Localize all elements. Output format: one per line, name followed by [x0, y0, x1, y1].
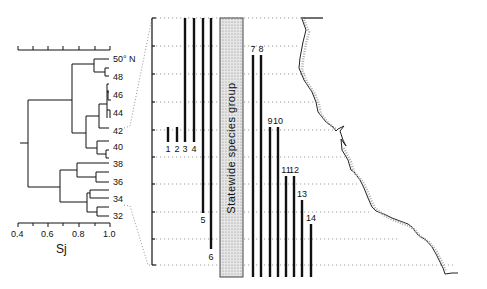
leaf-label-48: 48	[113, 72, 123, 82]
leaf-label-34: 34	[113, 194, 123, 204]
leaf-label-38: 38	[113, 159, 123, 169]
leaf-label-46: 46	[113, 90, 123, 100]
leaf-label-44: 44	[113, 108, 123, 118]
axis-tick-1-0: 1.0	[103, 229, 116, 239]
leaf-label-32: 32	[113, 211, 123, 221]
leaf-label-42: 42	[113, 126, 123, 136]
latitude-axis	[152, 18, 156, 265]
figure-graphics	[0, 0, 487, 289]
bar-label-8: 8	[256, 44, 266, 54]
bar-label-5: 5	[198, 215, 208, 225]
bar-label-4: 4	[189, 144, 199, 154]
leaf-label-36: 36	[113, 177, 123, 187]
dendrogram-tree	[20, 59, 111, 216]
latitude-gridlines	[156, 18, 453, 265]
statewide-species-group-label: Statewide species group	[225, 82, 237, 213]
bar-label-13: 13	[297, 189, 307, 199]
bar-label-6: 6	[206, 252, 216, 262]
dendrogram-top-scale	[18, 46, 110, 50]
bar-label-10: 10	[273, 116, 283, 126]
bar-label-14: 14	[306, 213, 316, 223]
axis-tick-0-8: 0.8	[72, 229, 85, 239]
coastline	[299, 18, 458, 274]
bar-label-12: 12	[289, 165, 299, 175]
leaf-label-40: 40	[113, 142, 123, 152]
dendrogram-bottom-scale	[18, 223, 110, 227]
axis-tick-0-4: 0.4	[11, 229, 24, 239]
leaf-label-50: 50° N	[113, 54, 136, 64]
axis-label-sj: Sj	[56, 242, 67, 256]
axis-tick-0-6: 0.6	[41, 229, 54, 239]
